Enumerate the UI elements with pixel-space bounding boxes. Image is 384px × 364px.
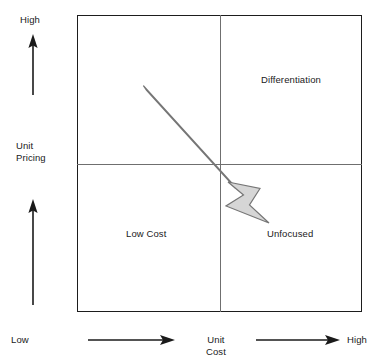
y-axis-high-label: High (20, 14, 40, 26)
x-axis-title-line1: Unit (206, 334, 226, 346)
quadrant-label-differentiation: Differentiation (261, 74, 321, 85)
x-axis-low-label: Low (11, 334, 29, 346)
quadrant-label-unfocused: Unfocused (267, 228, 313, 239)
x-axis-right-arrow-left (88, 335, 175, 345)
y-axis-title-line2: Pricing (16, 152, 46, 164)
quadrant-label-low-cost: Low Cost (126, 228, 166, 239)
y-axis-title: Unit Pricing (16, 140, 46, 164)
y-axis-title-line1: Unit (16, 140, 46, 152)
matrix-horizontal-divider (77, 164, 362, 165)
x-axis-title-line2: Cost (206, 346, 226, 358)
x-axis-title: Unit Cost (206, 334, 226, 358)
y-axis-up-arrow-upper (28, 34, 37, 95)
y-axis-up-arrow-lower (28, 199, 37, 305)
diagram-canvas: Differentiation Low Cost Unfocused High … (0, 0, 384, 364)
x-axis-high-label: High (347, 334, 367, 346)
x-axis-right-arrow-right (256, 335, 340, 345)
